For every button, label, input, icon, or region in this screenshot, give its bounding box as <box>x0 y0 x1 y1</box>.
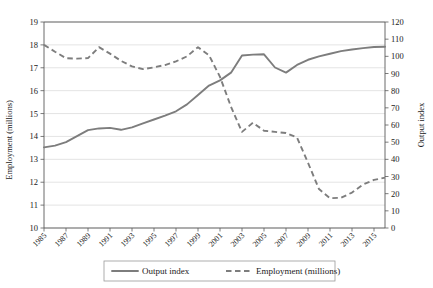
x-axis-tick-label: 2003 <box>229 231 247 249</box>
x-axis-tick-labels: 1985198719891991199319951997199920012003… <box>31 231 379 249</box>
y-axis-right-title: Output index <box>416 102 426 147</box>
x-axis-tick-label: 1995 <box>141 231 159 249</box>
y-axis-right-tick-label: 40 <box>391 154 400 164</box>
x-axis-tick-label: 2001 <box>207 231 225 249</box>
y-axis-left-title: Employment (millions) <box>4 100 14 180</box>
y-axis-left-tick-label: 14 <box>30 131 39 141</box>
y-axis-right-tick-label: 30 <box>391 172 400 182</box>
x-axis-tick-label: 2007 <box>273 231 291 249</box>
y-axis-left-tick-label: 16 <box>30 86 39 96</box>
y-axis-right-tick-label: 120 <box>391 17 404 27</box>
x-axis-tick-label: 1997 <box>163 231 181 249</box>
chart-container: 10111213141516171819 0102030405060708090… <box>0 0 433 288</box>
y-axis-left-tick-label: 11 <box>30 200 38 210</box>
y-axis-left-tick-labels: 10111213141516171819 <box>30 17 39 233</box>
y-axis-left-tick-label: 17 <box>30 63 39 73</box>
line-chart: 10111213141516171819 0102030405060708090… <box>0 0 433 288</box>
x-axis-tick-label: 2011 <box>317 231 334 248</box>
y-axis-left-tick-label: 13 <box>30 154 39 164</box>
y-axis-right-tick-label: 80 <box>391 86 400 96</box>
y-axis-left-tick-label: 10 <box>30 223 39 233</box>
y-axis-right-tick-label: 50 <box>391 137 400 147</box>
y-axis-right-tick-label: 20 <box>391 189 400 199</box>
y-axis-right-tick-labels: 0102030405060708090100110120 <box>391 17 404 233</box>
x-axis-tick-label: 1985 <box>31 231 49 249</box>
y-axis-left-tick-label: 15 <box>30 109 39 119</box>
y-axis-left-tick-label: 18 <box>30 40 39 50</box>
chart-legend: Output indexEmployment (millions) <box>104 261 340 281</box>
x-axis-tick-label: 1991 <box>97 231 115 249</box>
y-axis-right-tick-label: 10 <box>391 206 400 216</box>
x-axis-tick-label: 2013 <box>339 231 357 249</box>
x-axis-tick-label: 1987 <box>53 231 71 249</box>
y-axis-right-tick-label: 70 <box>391 103 400 113</box>
x-axis-tick-label: 2009 <box>295 231 313 249</box>
series-line-output-index <box>44 47 385 148</box>
y-axis-right-tick-label: 90 <box>391 69 400 79</box>
y-axis-left-tick-label: 19 <box>30 17 39 27</box>
x-axis-tick-label: 2015 <box>361 231 379 249</box>
x-axis-tick-label: 1989 <box>75 231 93 249</box>
legend-label-output-index: Output index <box>142 266 190 276</box>
x-axis-tick-label: 1999 <box>185 231 203 249</box>
y-axis-left-tick-label: 12 <box>30 177 39 187</box>
legend-label-employment: Employment (millions) <box>256 266 340 276</box>
y-axis-right-tick-label: 60 <box>391 120 400 130</box>
y-axis-right-tick-label: 0 <box>391 223 395 233</box>
y-axis-right-tick-label: 110 <box>391 34 403 44</box>
y-axis-right-tick-label: 100 <box>391 51 404 61</box>
x-axis-tick-label: 2005 <box>251 231 269 249</box>
x-axis-tick-label: 1993 <box>119 231 137 249</box>
